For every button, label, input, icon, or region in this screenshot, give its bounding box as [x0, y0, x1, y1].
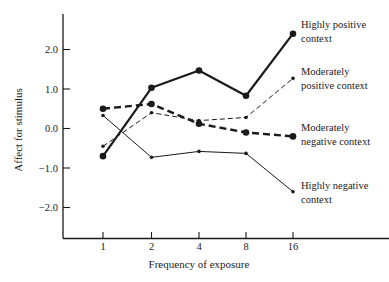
x-tick-label: 2: [149, 241, 154, 252]
data-point-marker: [244, 116, 248, 120]
x-tick-label: 1: [100, 241, 105, 252]
series-label: context: [301, 33, 332, 44]
data-point-marker: [101, 144, 105, 148]
series-line: [103, 34, 293, 156]
series-group: [100, 30, 297, 193]
series-label: Highly positive: [301, 19, 366, 30]
data-point-marker: [150, 111, 154, 115]
y-ticks: 2.01.00.0−1.0−2.0: [39, 44, 70, 213]
y-tick-label: −2.0: [39, 202, 58, 213]
data-point-marker: [197, 150, 201, 154]
data-point-marker: [243, 92, 250, 99]
data-point-marker: [100, 153, 107, 160]
y-tick-label: 1.0: [45, 84, 58, 95]
x-tick-label: 4: [196, 241, 202, 252]
line-chart: 2.01.00.0−1.0−2.0 124816 Affect for stim…: [0, 0, 389, 282]
series-label: Highly negative: [301, 180, 369, 191]
legend-labels: Highly positivecontextModeratelypositive…: [301, 19, 370, 205]
data-point-marker: [291, 77, 295, 81]
series-highly-positive-context: [100, 30, 297, 159]
data-point-marker: [243, 129, 250, 136]
data-point-marker: [148, 85, 155, 92]
data-point-marker: [290, 133, 297, 140]
series-label: context: [301, 194, 332, 205]
data-point-marker: [196, 67, 203, 74]
data-point-marker: [291, 190, 295, 194]
data-point-marker: [100, 105, 107, 112]
data-point-marker: [148, 101, 155, 108]
data-point-marker: [150, 156, 154, 160]
x-ticks: 124816: [100, 232, 298, 252]
data-point-marker: [290, 30, 297, 37]
data-point-marker: [101, 114, 105, 118]
y-tick-label: 0.0: [45, 123, 58, 134]
data-point-marker: [196, 120, 203, 127]
y-tick-label: −1.0: [39, 163, 58, 174]
y-tick-label: 2.0: [45, 44, 58, 55]
series-label: negative context: [301, 136, 370, 147]
x-axis-title: Frequency of exposure: [149, 258, 250, 270]
series-label: positive context: [301, 80, 368, 91]
x-tick-label: 16: [288, 241, 299, 252]
data-point-marker: [244, 152, 248, 156]
y-axis-title: Affect for stimulus: [12, 88, 24, 172]
series-label: Moderately: [301, 66, 350, 77]
series-line: [103, 78, 293, 146]
x-tick-label: 8: [243, 241, 248, 252]
series-moderately-positive-context: [101, 77, 295, 149]
series-label: Moderately: [301, 122, 350, 133]
